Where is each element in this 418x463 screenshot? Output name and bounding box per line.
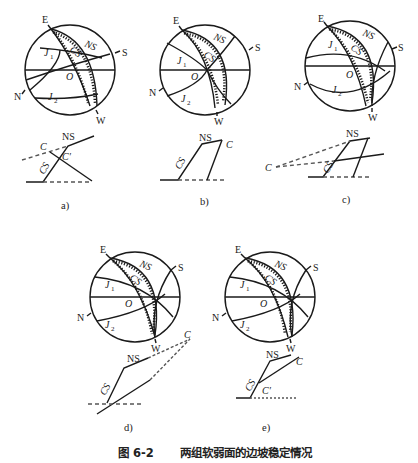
label-s: S	[255, 42, 261, 53]
section-c-ns: NS	[346, 128, 359, 139]
panel-label-b: b)	[200, 196, 209, 208]
figure-title: 两组软弱面的边坡稳定情况	[180, 446, 313, 460]
label-n: N	[212, 312, 219, 323]
label-j1-sub: 1	[246, 285, 250, 293]
section-a-c: C	[40, 141, 47, 152]
panel-b: E S N W O J 1 J 2 NS CS	[149, 15, 261, 127]
cs-hachure	[54, 32, 88, 103]
section-d-c: C	[184, 329, 191, 340]
label-j1-sub: 1	[334, 45, 338, 53]
label-n: N	[149, 87, 156, 98]
label-n: N	[294, 81, 301, 92]
tick-n	[159, 88, 163, 91]
label-o: O	[346, 69, 353, 80]
figure-number: 图 6-2	[118, 446, 154, 460]
label-n: N	[14, 91, 21, 102]
label-s: S	[313, 262, 319, 273]
slope-profile	[160, 140, 222, 180]
tick-w	[96, 110, 98, 114]
label-n: N	[77, 312, 84, 323]
j2-great-circle	[35, 94, 98, 99]
panel-a: E S N W O J 1 J 2 NS CS	[14, 14, 128, 126]
label-e: E	[42, 14, 48, 25]
label-j2-sub: 2	[187, 99, 191, 107]
tick-e	[106, 254, 110, 258]
stereonet-d	[87, 252, 180, 343]
label-j2-sub: 2	[246, 325, 250, 333]
tick-n	[22, 90, 25, 94]
c-prime-line	[50, 152, 92, 181]
label-j2: J	[240, 319, 245, 330]
stereonet-b	[159, 25, 253, 116]
label-j1-sub: 1	[50, 53, 54, 61]
tick-s	[392, 47, 397, 49]
label-j1: J	[177, 55, 182, 66]
label-s: S	[122, 47, 128, 58]
stereonet-a	[22, 25, 120, 115]
tick-e	[179, 26, 182, 30]
label-j2: J	[181, 93, 186, 104]
section-b-c: C	[226, 139, 233, 150]
label-j1: J	[240, 279, 245, 290]
label-j2: J	[105, 319, 110, 330]
label-j2-sub: 2	[338, 90, 342, 98]
tick-e	[48, 25, 51, 29]
tick-e	[324, 22, 327, 26]
section-e-cs: CS	[242, 377, 257, 393]
section-e-cprime: C′	[262, 385, 272, 396]
label-ns: NS	[211, 30, 227, 45]
section-a-cprime: C′	[62, 151, 72, 162]
section-a	[22, 136, 94, 182]
label-j1: J	[328, 39, 333, 50]
panel-label-a: a)	[61, 200, 70, 212]
tick-s	[306, 266, 311, 270]
label-j2-sub: 2	[54, 97, 58, 105]
label-j2-sub: 2	[111, 325, 115, 333]
label-cs: CS	[349, 42, 365, 58]
label-o: O	[260, 298, 267, 309]
panel-label-e: e)	[262, 422, 271, 434]
label-o: O	[125, 298, 132, 309]
tick-s	[171, 266, 176, 270]
label-j1: J	[105, 279, 110, 290]
panel-label-d: d)	[124, 422, 133, 434]
tick-s	[115, 51, 120, 53]
label-ns: NS	[82, 37, 98, 52]
panel-c: E S N W O J 1 J 2 NS CS	[294, 13, 404, 123]
label-j2: J	[48, 91, 53, 102]
label-w: W	[96, 115, 106, 126]
label-e: E	[173, 15, 179, 26]
label-w: W	[368, 112, 378, 123]
c-line	[207, 140, 222, 180]
section-d-ns: NS	[127, 353, 140, 364]
tick-n	[304, 82, 308, 85]
section-b	[160, 140, 225, 180]
label-j1: J	[44, 47, 49, 58]
label-j1-sub: 1	[183, 61, 187, 69]
figure-canvas: E S N W O J 1 J 2 NS CS NS C C′ CS a)	[0, 0, 418, 463]
label-o: O	[191, 71, 198, 82]
panel-d: E S N W O J 1 J 2 NS CS	[77, 244, 184, 354]
tick-n	[87, 313, 91, 316]
tick-s	[249, 47, 253, 50]
section-e-ns: NS	[266, 349, 279, 360]
section-d-cs: CS	[97, 381, 112, 397]
slope-profile	[107, 358, 148, 403]
label-e: E	[318, 13, 324, 24]
section-d	[88, 339, 190, 414]
label-s: S	[398, 42, 404, 53]
stereonet-c	[304, 21, 397, 112]
label-s: S	[178, 262, 184, 273]
panel-e: E S N W O J 1 J 2 NS CS	[212, 244, 319, 354]
tick-e	[241, 254, 245, 258]
section-a-ns: NS	[62, 131, 75, 142]
tick-n	[222, 313, 226, 316]
stereonet-e	[222, 252, 315, 343]
panel-label-c: c)	[342, 194, 351, 206]
label-w: W	[286, 343, 296, 354]
section-e-c: C	[296, 356, 303, 367]
j2-ext	[207, 70, 231, 104]
section-c-c: C	[265, 162, 272, 173]
label-o: O	[66, 71, 73, 82]
section-b-ns: NS	[199, 132, 212, 143]
